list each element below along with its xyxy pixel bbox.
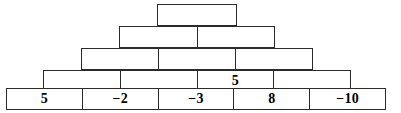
pyramid-row-1 xyxy=(157,4,237,26)
pyramid-cell-r3c1[interactable] xyxy=(82,49,159,69)
pyramid-cell-r3c3[interactable] xyxy=(236,49,313,69)
pyramid-cell-value: 8 xyxy=(268,92,275,106)
pyramid-cell-value: −2 xyxy=(113,92,128,106)
pyramid-row-2 xyxy=(119,26,275,48)
pyramid-cell-r2c2[interactable] xyxy=(198,27,276,47)
pyramid-cell-value: 5 xyxy=(41,92,48,106)
pyramid-cell-r5c2[interactable]: −2 xyxy=(83,89,159,109)
pyramid-cell-r5c1[interactable]: 5 xyxy=(7,89,83,109)
pyramid-row-5: 5 −2 −3 8 −10 xyxy=(6,88,386,110)
pyramid-cell-r3c2[interactable] xyxy=(159,49,236,69)
pyramid-cell-value: 5 xyxy=(232,74,239,88)
pyramid-cell-r5c4[interactable]: 8 xyxy=(234,89,310,109)
pyramid-cell-r5c3[interactable]: −3 xyxy=(159,89,235,109)
pyramid-cell-r2c1[interactable] xyxy=(120,27,198,47)
pyramid-cell-value: −3 xyxy=(188,92,203,106)
pyramid-cell-value: −10 xyxy=(336,92,359,106)
pyramid-cell-r5c5[interactable]: −10 xyxy=(310,89,386,109)
pyramid-cell-r1c1[interactable] xyxy=(158,5,237,25)
number-pyramid-diagram: 5 5 −2 −3 8 −10 xyxy=(0,0,401,113)
pyramid-row-3 xyxy=(81,48,313,70)
